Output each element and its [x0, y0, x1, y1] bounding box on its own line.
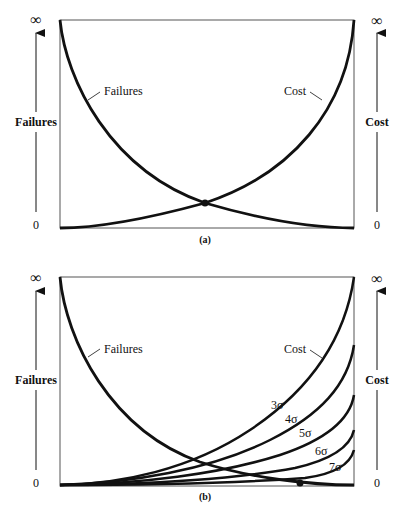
sigma-label-6: 6σ [315, 444, 328, 458]
panel-a-caption: (a) [199, 234, 211, 246]
panel-a-cost-curve-label: Cost [284, 84, 307, 98]
diagram-canvas: Failures Cost ∞ Failures 0 ∞ Cost 0 (a) [0, 0, 400, 516]
sigma-label-3: 3σ [271, 398, 284, 412]
panel-a-cost-leader [310, 92, 322, 100]
panel-b-right-infinity: ∞ [371, 270, 382, 287]
panel-a: Failures Cost ∞ Failures 0 ∞ Cost 0 (a) [15, 11, 389, 246]
panel-a-optimum-point [202, 200, 209, 207]
panel-b-failures-curve-label: Failures [104, 342, 143, 356]
panel-a-left-infinity: ∞ [30, 11, 41, 28]
panel-b-optimum-point [297, 480, 304, 487]
panel-a-failures-curve [60, 20, 354, 228]
panel-a-right-zero: 0 [374, 218, 380, 232]
panel-b-caption: (b) [199, 491, 211, 503]
panel-b-left-infinity: ∞ [30, 269, 41, 286]
panel-b: Failures Cost 3σ 4σ 5σ 6σ 7σ ∞ Failures … [15, 269, 389, 503]
panel-b-cost-curve-5sigma [60, 395, 354, 485]
panel-b-left-zero: 0 [33, 476, 39, 490]
panel-a-right-infinity: ∞ [371, 12, 382, 29]
panel-b-cost-curve-3sigma [60, 277, 354, 485]
panel-a-right-axis-label: Cost [365, 115, 388, 129]
panel-a-failures-leader [88, 92, 100, 100]
panel-a-left-zero: 0 [33, 218, 39, 232]
panel-b-cost-leader [310, 350, 322, 358]
panel-b-failures-leader [88, 349, 100, 357]
panel-a-failures-curve-label: Failures [104, 84, 143, 98]
sigma-label-4: 4σ [285, 412, 298, 426]
panel-b-cost-curve-label: Cost [284, 342, 307, 356]
panel-a-frame [60, 20, 354, 228]
panel-a-left-axis-label: Failures [15, 115, 57, 129]
panel-b-right-axis-label: Cost [365, 373, 388, 387]
panel-b-left-axis-label: Failures [15, 373, 57, 387]
sigma-label-7: 7σ [329, 460, 342, 474]
sigma-label-5: 5σ [299, 426, 312, 440]
panel-a-cost-curve [60, 20, 354, 228]
panel-b-right-zero: 0 [374, 476, 380, 490]
